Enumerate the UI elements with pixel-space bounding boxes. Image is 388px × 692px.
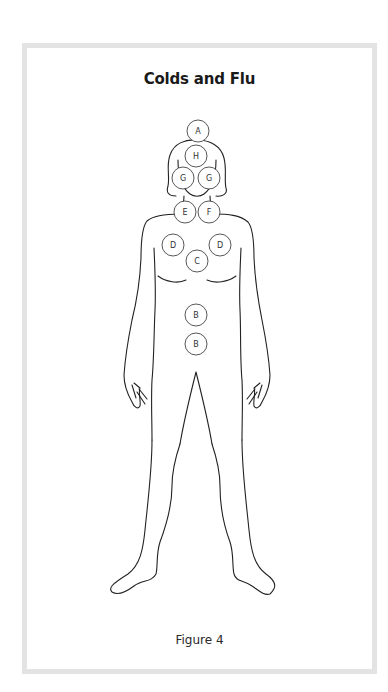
point-f: F <box>198 201 220 223</box>
svg-text:B: B <box>193 340 199 349</box>
svg-text:F: F <box>207 208 212 217</box>
point-g-right: G <box>198 167 220 189</box>
svg-text:D: D <box>170 241 176 250</box>
point-a: A <box>187 120 209 142</box>
breast-line-right <box>207 276 236 282</box>
svg-text:H: H <box>193 152 199 161</box>
point-b-upper: B <box>185 304 207 326</box>
svg-text:A: A <box>195 127 201 136</box>
point-d-right: D <box>209 234 231 256</box>
right-inner-arm <box>240 248 243 440</box>
left-leg-outer <box>111 440 180 594</box>
svg-text:C: C <box>194 257 200 266</box>
point-g-left: G <box>172 167 194 189</box>
svg-text:B: B <box>193 311 199 320</box>
right-leg-outer <box>212 440 275 594</box>
svg-text:G: G <box>206 174 212 183</box>
point-h: H <box>185 145 207 167</box>
left-inner-arm <box>152 248 156 440</box>
svg-text:G: G <box>180 174 186 183</box>
point-c: C <box>186 250 208 272</box>
inner-legs <box>180 372 212 444</box>
point-b-lower: B <box>185 333 207 355</box>
svg-text:E: E <box>182 208 187 217</box>
point-d-left: D <box>162 234 184 256</box>
point-e: E <box>174 201 196 223</box>
svg-text:D: D <box>217 241 223 250</box>
body-diagram: A H G G E F D D C B B <box>0 0 388 692</box>
breast-line-left <box>158 276 186 282</box>
